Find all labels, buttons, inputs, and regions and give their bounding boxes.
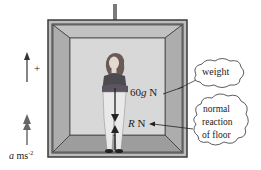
lift-diagram: [0, 0, 261, 170]
normal-callout-line2: reaction: [202, 118, 233, 128]
acceleration-arrow: [23, 114, 31, 145]
normal-callout-line3: of floor: [202, 131, 231, 141]
lift-left-wall: [53, 25, 70, 152]
weight-coefficient: 60: [130, 86, 141, 98]
reaction-unit: N: [135, 117, 146, 129]
acceleration-exponent: -2: [28, 150, 33, 156]
lift-cable: [113, 4, 117, 21]
weight-unit: N: [147, 86, 158, 98]
normal-callout-line1: normal: [203, 105, 230, 115]
weight-callout-text: weight: [202, 67, 229, 77]
positive-direction-label: +: [34, 63, 40, 74]
lift-ceiling: [53, 25, 182, 38]
positive-direction-arrow: [24, 52, 30, 82]
weight-value-label: 60g N: [130, 87, 157, 98]
reaction-var: R: [128, 117, 135, 129]
acceleration-label: a ms-2: [9, 150, 33, 161]
reaction-value-label: R N: [128, 118, 145, 129]
acceleration-unit: ms: [14, 150, 28, 161]
